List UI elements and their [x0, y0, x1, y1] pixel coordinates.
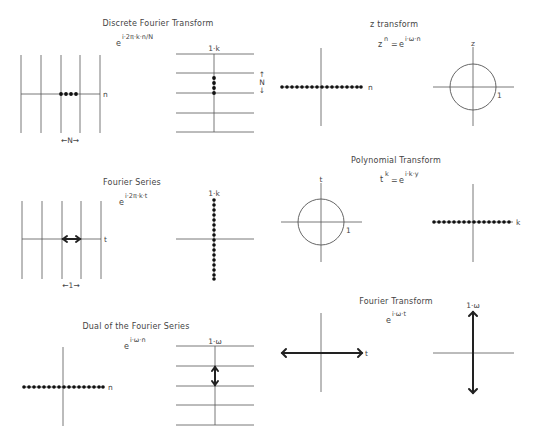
dual-fourier-series-title: Dual of the Fourier Series [82, 322, 189, 331]
dft-formula-base: e [116, 39, 121, 48]
fourier-transform-title: Fourier Transform [359, 297, 433, 306]
fs-time-domain-plot: t ←1→ [22, 201, 107, 290]
fs-period-label: ←1→ [62, 281, 79, 290]
dfs-formula-base: e [124, 342, 129, 351]
pt-k-axis-label: k [516, 218, 521, 227]
ft-t-axis-label: t [365, 349, 368, 358]
fs-t-axis-label: t [104, 235, 107, 244]
fourier-series-title: Fourier Series [103, 178, 161, 187]
z-unit-label: 1 [497, 91, 502, 100]
z-formula-base: e [399, 40, 404, 49]
z-plane-plot: z 1 [433, 39, 514, 126]
fs-k-axis-label: 1·k [208, 189, 220, 198]
dfs-period-double-arrow [212, 367, 218, 385]
dfs-omega-axis-label: 1·ω [208, 337, 221, 346]
fs-formula-exponent: i·2π·k·t [125, 192, 148, 200]
ft-time-domain-plot: t [282, 313, 368, 392]
dfs-frequency-plot: 1·ω [176, 337, 254, 425]
panel-polynomial-transform: Polynomial Transform t k = e i·k·y t 1 [281, 156, 521, 262]
dft-frequency-domain-plot: 1·k ↑ N ↓ [176, 44, 265, 132]
panel-fourier-series: Fourier Series e i·2π·k·t t ←1→ [22, 178, 254, 290]
dfs-formula-exponent: i·ω·n [130, 336, 146, 344]
polynomial-transform-title: Polynomial Transform [351, 156, 441, 165]
dfs-sample-dots [22, 385, 105, 389]
fs-frequency-domain-plot: 1·k [176, 189, 254, 281]
dft-formula-exponent: i·2π·k·n/N [122, 33, 153, 41]
pt-t-axis-label: t [320, 175, 323, 184]
panel-dft: Discrete Fourier Transform e i·2π·k·n/N … [21, 19, 265, 145]
panel-fourier-transform: Fourier Transform e i·ω·t t 1·ω [282, 297, 514, 393]
pt-formula-exponent: i·k·y [405, 170, 419, 178]
pt-formula-lhs-exponent: k [385, 170, 389, 178]
dft-k-axis-label: 1·k [208, 44, 220, 53]
z-formula-lhs-base: z [378, 40, 382, 49]
ft-formula-exponent: i·ω·t [392, 310, 406, 318]
panel-dual-fourier-series: Dual of the Fourier Series e i·ω·n n [22, 322, 254, 426]
transform-diagram: Discrete Fourier Transform e i·2π·k·n/N … [0, 0, 535, 446]
pt-unit-label: 1 [346, 226, 351, 235]
z-time-domain-plot: n [280, 48, 373, 126]
pt-k-axis-plot: k [432, 184, 521, 262]
pt-unit-circle-plot: t 1 [281, 175, 362, 262]
fs-period-double-arrow [63, 236, 80, 242]
dft-period-arrow-down: ↓ [259, 86, 265, 95]
z-formula-exponent: i·ω·n [405, 35, 421, 43]
fs-coefficient-dots [212, 198, 216, 281]
fs-formula-base: e [119, 198, 124, 207]
pt-formula-equals: = [391, 176, 398, 185]
dfs-n-axis-plot: n [22, 347, 113, 426]
ft-omega-axis-label: 1·ω [466, 301, 479, 310]
z-axis-label: z [471, 39, 475, 48]
pt-formula-base: e [399, 176, 404, 185]
ft-frequency-domain-plot: 1·ω [433, 301, 514, 393]
dft-time-domain-plot: n ←N→ [21, 55, 108, 145]
z-transform-title: z transform [370, 20, 418, 29]
panel-z-transform: z transform z n = e i·ω·n n [280, 20, 514, 126]
z-sample-dots [280, 85, 363, 89]
dft-period-label: ←N→ [61, 136, 79, 145]
pt-formula-lhs-base: t [380, 175, 383, 184]
z-n-axis-label: n [368, 83, 373, 92]
dft-n-axis-label: n [103, 90, 108, 99]
z-formula-equals: = [391, 40, 398, 49]
z-formula-lhs-exponent: n [384, 35, 388, 43]
dft-title: Discrete Fourier Transform [102, 19, 213, 28]
dfs-n-axis-label: n [108, 383, 113, 392]
ft-formula-base: e [386, 316, 391, 325]
